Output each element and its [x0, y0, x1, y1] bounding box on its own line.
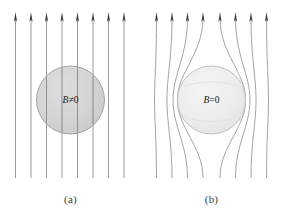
field-line-curved [251, 18, 256, 178]
panel-a-diagram: B≠0 [0, 0, 141, 211]
panel-b-caption: (b) [141, 193, 282, 205]
panel-a-caption: (a) [0, 193, 141, 205]
panel-b-diagram: B=0 [141, 0, 282, 211]
field-label-b: B=0 [204, 95, 220, 105]
field-line-curved [267, 18, 269, 178]
field-label-a: B≠0 [63, 95, 79, 105]
field-label-a-value: 0 [74, 95, 79, 105]
panel-a-normal-state: B≠0 (a) [0, 0, 141, 211]
field-line-curved [155, 18, 157, 178]
meissner-effect-figure: B≠0 (a) [0, 0, 282, 211]
field-line-curved [167, 18, 172, 178]
field-label-b-value: 0 [215, 95, 220, 105]
panel-b-superconducting-state: B=0 (b) [141, 0, 282, 211]
